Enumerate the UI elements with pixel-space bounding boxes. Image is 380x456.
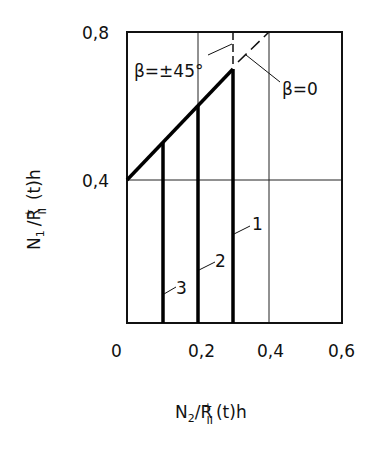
y-label-sup: +: [22, 209, 35, 218]
x-label-sub2: II: [206, 414, 213, 427]
line-1-label: 1: [252, 214, 263, 234]
beta45-label: β=±45°: [134, 61, 203, 81]
beta0-dashed: [238, 32, 269, 62]
beta0-label: β=0: [282, 79, 318, 99]
leader-1: [234, 226, 250, 234]
chart: β=±45° β=0 1 2 3 0,8 0,4 0 0,2 0,4 0,6 N…: [0, 0, 380, 456]
x-label-sup: +: [203, 400, 212, 413]
y-axis-label: N1/R+II(t)h: [22, 169, 49, 250]
y-label-rest: (t)h: [24, 169, 44, 200]
x-tick-0.6: 0,6: [328, 341, 355, 361]
x-tick-0: 0: [111, 341, 122, 361]
beta0-leader: [246, 55, 280, 82]
x-axis-label: N2/R+II(t)h: [175, 400, 247, 427]
x-tick-0.2: 0,2: [188, 341, 215, 361]
x-label-main: N: [175, 402, 188, 422]
beta45-leader: [208, 44, 232, 55]
x-label-sub1: 2: [188, 412, 195, 425]
y-tick-0.4: 0,4: [82, 171, 109, 191]
line-3-label: 3: [176, 278, 187, 298]
y-label-sub2: II: [36, 208, 49, 215]
line-2-label: 2: [215, 251, 226, 271]
y-tick-0.8: 0,8: [82, 23, 109, 43]
x-tick-0.4: 0,4: [257, 341, 284, 361]
y-label-sub1: 1: [34, 230, 47, 237]
x-label-rest: (t)h: [216, 402, 247, 422]
leader-3: [164, 287, 176, 294]
y-label-main: N: [24, 237, 44, 250]
leader-2: [199, 262, 215, 270]
envelope-line: [127, 69, 233, 180]
